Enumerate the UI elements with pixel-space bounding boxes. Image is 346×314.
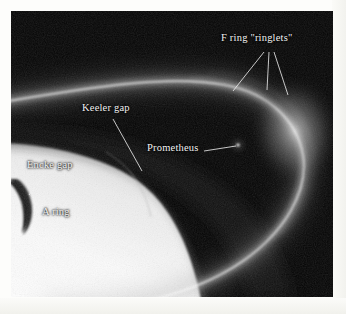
film-grain <box>11 11 333 297</box>
label-encke-gap: Encke gap <box>27 159 73 170</box>
label-keeler-gap: Keeler gap <box>82 102 130 113</box>
label-prometheus: Prometheus <box>147 142 199 153</box>
label-f-ring-ringlets: F ring "ringlets" <box>221 32 292 43</box>
page-background: F ring "ringlets" Keeler gap Prometheus … <box>0 0 346 314</box>
astronomy-photograph: F ring "ringlets" Keeler gap Prometheus … <box>11 11 333 297</box>
paper-margin-right <box>332 0 346 314</box>
paper-margin-bottom <box>0 298 346 314</box>
ring-system-illustration <box>11 11 333 297</box>
label-a-ring: A ring <box>42 206 70 217</box>
